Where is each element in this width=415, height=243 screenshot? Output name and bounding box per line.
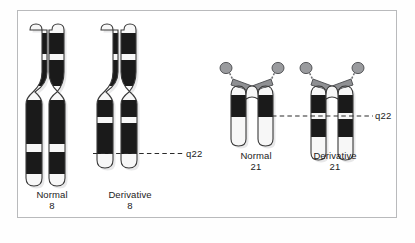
satellite-right [272, 62, 284, 73]
caption-derivative-8-line1: Derivative [108, 189, 151, 200]
breakpoint-label-chr8: q22 [186, 148, 202, 159]
chromosome-derivative-8 [95, 22, 144, 172]
satellite-left [220, 62, 232, 73]
chromosome-normal-8 [24, 22, 71, 190]
caption-normal-21-line2: 21 [216, 161, 296, 172]
caption-derivative-21-line1: Derivative [313, 150, 356, 161]
breakpoint-label-chr21: q22 [375, 110, 391, 121]
chromosome-derivative-21 [300, 62, 364, 164]
caption-normal-8: Normal 8 [12, 189, 92, 211]
caption-derivative-8-line2: 8 [85, 200, 175, 211]
figure-root: q22 q22 Normal 8 Derivative 8 Normal 21 … [0, 0, 415, 243]
caption-derivative-21-line2: 21 [290, 161, 380, 172]
caption-normal-8-line2: 8 [12, 200, 92, 211]
caption-derivative-21: Derivative 21 [290, 150, 380, 172]
caption-normal-21: Normal 21 [216, 150, 296, 172]
satellite-right [352, 62, 364, 73]
caption-normal-8-line1: Normal [36, 189, 67, 200]
satellite-left [300, 62, 312, 73]
caption-normal-21-line1: Normal [240, 150, 271, 161]
chromosome-normal-21 [220, 62, 284, 150]
caption-derivative-8: Derivative 8 [85, 189, 175, 211]
